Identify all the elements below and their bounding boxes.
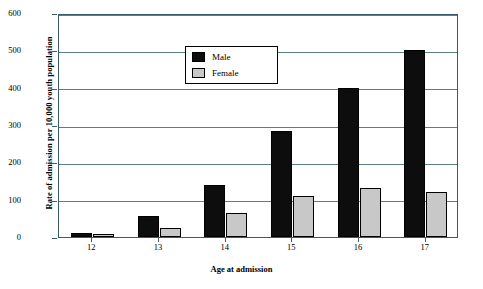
x-tick-mark [91, 238, 92, 242]
gridline [59, 15, 457, 16]
chart-container: Rate of admission per 10,000 youth popul… [0, 0, 483, 289]
y-tick-label: 200 [0, 157, 21, 167]
x-tick-mark [291, 238, 292, 242]
x-axis-title: Age at admission [0, 264, 483, 274]
x-tick-label: 12 [71, 242, 111, 252]
legend-swatch-male-icon [192, 52, 205, 62]
y-tick-mark [52, 51, 57, 52]
gridline [59, 164, 457, 165]
x-tick-mark [358, 238, 359, 242]
gridline [59, 127, 457, 128]
legend-swatch-female-icon [192, 68, 205, 78]
gridline [59, 89, 457, 90]
bar-male [338, 88, 359, 237]
y-tick-mark [52, 238, 57, 239]
bar-female [160, 228, 181, 237]
bar-female [426, 192, 447, 237]
x-tick-label: 14 [205, 242, 245, 252]
y-axis-title: Rate of admission per 10,000 youth popul… [44, 8, 54, 238]
x-tick-label: 16 [338, 242, 378, 252]
bar-female [360, 188, 381, 237]
y-tick-label: 300 [0, 120, 21, 130]
x-tick-label: 15 [271, 242, 311, 252]
bar-female [93, 234, 114, 237]
x-tick-label: 17 [405, 242, 445, 252]
bar-female [226, 213, 247, 237]
gridline [59, 201, 457, 202]
x-tick-mark [158, 238, 159, 242]
y-tick-mark [52, 163, 57, 164]
x-tick-mark [425, 238, 426, 242]
bar-male [271, 131, 292, 237]
bar-male [204, 185, 225, 237]
y-tick-label: 500 [0, 45, 21, 55]
y-tick-label: 0 [0, 232, 21, 242]
legend: Male Female [185, 46, 278, 84]
x-tick-mark [225, 238, 226, 242]
y-tick-mark [52, 201, 57, 202]
y-tick-mark [52, 14, 57, 15]
y-tick-label: 100 [0, 195, 21, 205]
y-tick-label: 400 [0, 83, 21, 93]
bar-male [404, 50, 425, 237]
x-tick-label: 13 [138, 242, 178, 252]
y-tick-mark [52, 126, 57, 127]
bar-female [293, 196, 314, 237]
legend-item-male: Male [192, 52, 231, 62]
bar-male [138, 216, 159, 237]
y-tick-mark [52, 89, 57, 90]
y-tick-label: 600 [0, 8, 21, 18]
legend-label-female: Female [212, 68, 239, 78]
legend-label-male: Male [212, 52, 231, 62]
bar-male [71, 233, 92, 237]
legend-item-female: Female [192, 68, 239, 78]
